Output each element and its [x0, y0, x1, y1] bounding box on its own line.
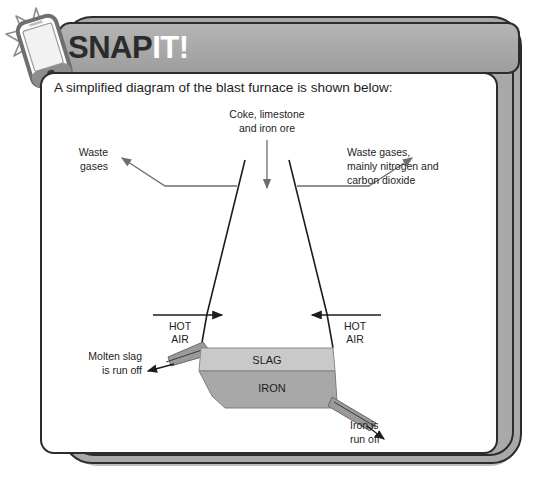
feed-label-line1: Coke, limestone	[229, 108, 304, 120]
furnace-wall-right	[289, 160, 333, 348]
hot-air-left-line2: AIR	[171, 333, 189, 345]
waste-gas-left-arrow	[122, 158, 237, 186]
waste-right-line1: Waste gases,	[347, 146, 410, 158]
feed-label-line2: and iron ore	[239, 122, 295, 134]
hot-air-right-line2: AIR	[346, 333, 364, 345]
iron-out-line1: Iron is	[350, 419, 379, 431]
page-title: SNAPIT!	[68, 26, 189, 70]
intro-text: A simplified diagram of the blast furnac…	[54, 80, 474, 95]
hot-air-left-line1: HOT	[169, 320, 192, 332]
molten-slag-line2: is run off	[102, 364, 142, 376]
molten-slag-line1: Molten slag	[88, 350, 142, 362]
title-snap: SNAP	[68, 30, 152, 66]
hot-air-right-line1: HOT	[344, 320, 367, 332]
blast-furnace-diagram: Coke, limestone and iron ore Waste gases…	[40, 96, 494, 448]
snap-it-callout: SNAPIT! A simplified diagram of the blas…	[0, 0, 534, 496]
iron-layer-label: IRON	[258, 382, 286, 394]
waste-left-line2: gases	[80, 160, 108, 172]
molten-slag-arrow	[148, 364, 174, 371]
slag-layer-label: SLAG	[252, 354, 281, 366]
title-it: IT!	[152, 30, 188, 66]
waste-right-line2: mainly nitrogen and	[347, 160, 439, 172]
furnace-wall-left	[201, 160, 245, 348]
iron-out-line2: run off	[350, 433, 380, 445]
waste-right-line3: carbon dioxide	[347, 174, 415, 186]
waste-left-line1: Waste	[79, 146, 109, 158]
